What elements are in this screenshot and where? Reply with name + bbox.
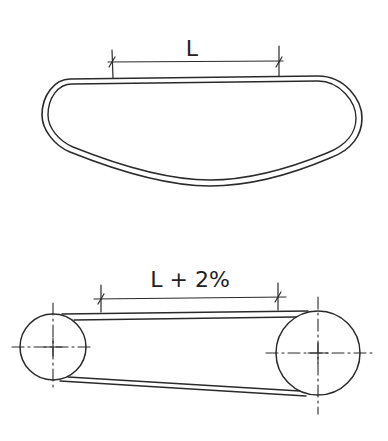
dimension-label-L-plus-2pct: L + 2% bbox=[150, 267, 230, 292]
belt-inner-edge bbox=[48, 81, 356, 180]
right-pulley-centerlines bbox=[266, 297, 374, 414]
dimension-label-L: L bbox=[186, 36, 199, 61]
free-belt-figure bbox=[42, 46, 362, 186]
belt-outer-edge bbox=[42, 76, 362, 186]
installed-belt-figure bbox=[12, 283, 374, 414]
belt-tension-diagram: L L + 2% bbox=[0, 0, 388, 441]
belt-upper-strand bbox=[62, 311, 308, 320]
belt-lower-strand bbox=[60, 377, 306, 396]
